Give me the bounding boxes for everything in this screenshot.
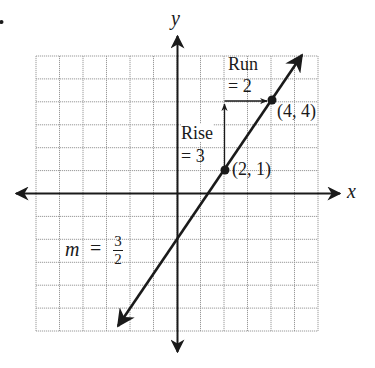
run-value: = 2	[228, 77, 252, 95]
slope-label-equals: =	[90, 238, 101, 258]
point-label-4-4: (4, 4)	[277, 102, 316, 120]
rise-label: Rise	[181, 124, 213, 142]
point-2-1	[221, 166, 230, 175]
point-4-4	[268, 96, 277, 105]
x-axis-label: x	[347, 181, 356, 201]
slope-numerator: 3	[114, 234, 122, 249]
run-label: Run	[228, 55, 258, 73]
y-axis-label: y	[171, 8, 180, 28]
corner-mark	[0, 20, 4, 24]
point-label-2-1: (2, 1)	[232, 160, 271, 178]
coordinate-plane	[0, 0, 375, 368]
slope-denominator: 2	[114, 252, 122, 267]
slope-fraction: 3 2	[113, 234, 123, 267]
rise-value: = 3	[181, 147, 205, 165]
slope-label-m: m	[65, 239, 79, 259]
